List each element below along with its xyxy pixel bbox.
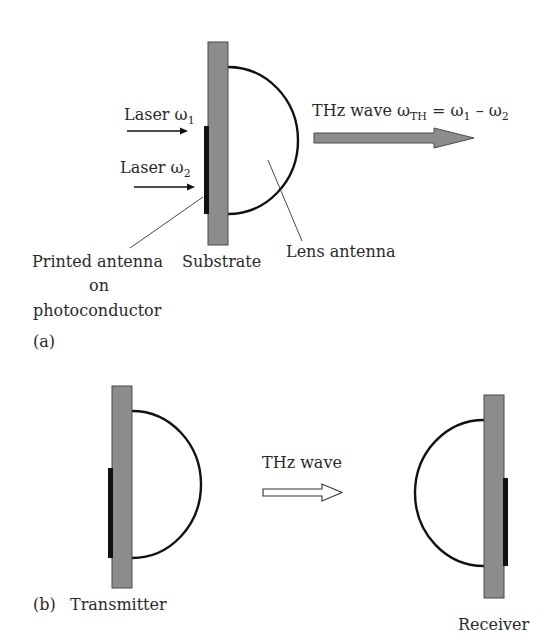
laser-1-label: Laser ω1 — [124, 105, 195, 127]
substrate-label: Substrate — [182, 252, 261, 271]
panel-a: Laser ω1 Laser ω2 THz wave ωTH = ω1 – ω2… — [32, 42, 509, 351]
printed-antenna-leader — [130, 197, 203, 248]
receiver-label: Receiver — [458, 615, 530, 634]
panel-a-tag: (a) — [33, 332, 55, 351]
substrate-a — [208, 42, 228, 245]
panel-b: THz wave (b) Transmitter Receiver — [33, 386, 530, 634]
printed-antenna-label-line1: Printed antenna — [32, 252, 163, 271]
transmitter — [108, 386, 201, 588]
lens-antenna-leader — [268, 160, 302, 241]
panel-b-tag: (b) — [33, 595, 56, 614]
laser-arrow-2 — [134, 184, 195, 191]
lens-antenna-transmitter — [132, 411, 201, 558]
printed-antenna-transmitter — [108, 468, 113, 558]
thz-wave-label: THz wave — [262, 453, 342, 472]
printed-antenna-label-line2: on — [89, 276, 109, 295]
printed-antenna-receiver — [503, 478, 508, 566]
thz-wave-arrow-hollow — [263, 484, 342, 501]
thz-output-arrow — [314, 128, 474, 148]
thz-antenna-diagram: Laser ω1 Laser ω2 THz wave ωTH = ω1 – ω2… — [0, 0, 557, 640]
receiver — [415, 395, 508, 598]
transmitter-label: Transmitter — [70, 595, 167, 614]
laser-arrow-1 — [127, 128, 188, 135]
lens-antenna-a — [228, 67, 298, 214]
laser-2-label: Laser ω2 — [120, 158, 191, 180]
lens-antenna-receiver — [415, 420, 484, 566]
lens-antenna-label: Lens antenna — [286, 242, 396, 261]
substrate-transmitter — [112, 386, 132, 588]
printed-antenna-a — [204, 126, 209, 214]
substrate-receiver — [484, 395, 504, 598]
printed-antenna-label-line3: photoconductor — [33, 301, 162, 320]
thz-wave-equation-label: THz wave ωTH = ω1 – ω2 — [312, 101, 509, 123]
